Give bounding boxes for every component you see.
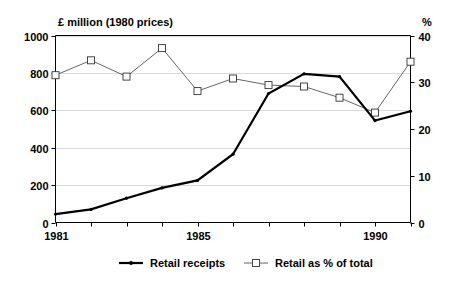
line-chart: 02004006008001000 010203040 198119851990… — [0, 0, 456, 292]
data-point-pct — [265, 82, 272, 89]
data-point-pct — [230, 75, 237, 82]
x-tick-label: 1990 — [363, 230, 387, 242]
data-point-receipts — [338, 75, 341, 78]
series-line-receipts — [56, 74, 411, 214]
y-tick-label-left: 0 — [42, 218, 48, 230]
x-axis-ticks: 198119851990 — [44, 223, 411, 242]
data-point-receipts — [409, 110, 412, 113]
chart-plot-frame — [56, 36, 411, 223]
y-tick-label-left: 400 — [30, 143, 48, 155]
legend-square-marker-icon — [253, 260, 260, 267]
legend-label-retail-receipts: Retail receipts — [150, 257, 225, 269]
y-tick-label-right: 40 — [419, 31, 431, 43]
y-tick-label-left: 1000 — [24, 31, 48, 43]
data-point-receipts — [160, 186, 163, 189]
data-point-receipts — [302, 72, 305, 75]
x-tick-label: 1981 — [44, 230, 68, 242]
data-point-pct — [123, 73, 130, 80]
y-tick-label-right: 20 — [419, 124, 431, 136]
series-markers-pct — [52, 45, 414, 117]
chart-gridlines — [56, 37, 411, 186]
data-point-receipts — [196, 179, 199, 182]
y-axis-left-ticks: 02004006008001000 — [24, 31, 55, 230]
y-tick-label-right: 10 — [419, 171, 431, 183]
series-retail-receipts — [54, 72, 412, 216]
legend-dot-marker-icon — [129, 261, 133, 265]
series-markers-receipts — [54, 72, 412, 216]
y-tick-label-right: 0 — [419, 218, 425, 230]
data-point-pct — [159, 45, 166, 52]
data-point-pct — [336, 94, 343, 101]
data-point-pct — [88, 57, 95, 64]
series-retail-as-pct-of-total — [52, 45, 414, 117]
y-tick-label-left: 600 — [30, 105, 48, 117]
data-point-pct — [301, 83, 308, 90]
x-tick-label: 1985 — [186, 230, 210, 242]
y-axis-left-title: £ million (1980 prices) — [58, 16, 173, 28]
data-point-receipts — [231, 153, 234, 156]
y-axis-right-title: % — [422, 16, 432, 28]
y-tick-label-left: 800 — [30, 68, 48, 80]
chart-container: 02004006008001000 010203040 198119851990… — [0, 0, 456, 292]
legend-item-retail-as-pct-of-total: Retail as % of total — [244, 257, 373, 269]
data-point-receipts — [54, 213, 57, 216]
legend-item-retail-receipts: Retail receipts — [119, 257, 225, 269]
legend-label-retail-as-pct-of-total: Retail as % of total — [275, 257, 373, 269]
data-point-receipts — [267, 92, 270, 95]
data-point-receipts — [89, 208, 92, 211]
data-point-pct — [372, 109, 379, 116]
data-point-pct — [407, 58, 414, 65]
data-point-pct — [52, 72, 59, 79]
y-tick-label-left: 200 — [30, 180, 48, 192]
data-point-receipts — [373, 119, 376, 122]
chart-legend: Retail receipts Retail as % of total — [119, 257, 373, 269]
y-tick-label-right: 30 — [419, 77, 431, 89]
data-point-pct — [194, 88, 201, 95]
data-point-receipts — [125, 197, 128, 200]
